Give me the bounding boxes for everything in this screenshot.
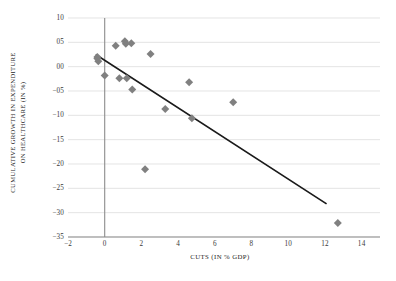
y-axis-tick-labels: 100500−05−10−15−20−25−30−35 [34,0,64,281]
x-axis-tick-label: 10 [273,240,303,248]
y-axis-title: CUMULATIVE GROWTH IN EXPENDITURE ON HEAL… [0,0,34,245]
x-axis-tick-label: 2 [126,240,156,248]
y-axis-tick-label: −25 [38,184,64,192]
x-axis-title: CUTS (IN % GDP) [60,253,380,260]
plot-svg [68,18,380,237]
axis-lines [68,18,380,237]
y-axis-tick-label: 10 [38,14,64,22]
y-axis-tick-label: −05 [38,87,64,95]
data-point-marker [334,219,342,227]
y-axis-tick-label: −20 [38,160,64,168]
scatter-chart-figure: CUMULATIVE GROWTH IN EXPENDITURE ON HEAL… [0,0,396,281]
x-axis-tick-label: −2 [53,240,83,248]
y-axis-tick-label: 05 [38,38,64,46]
data-point-marker [141,165,149,173]
data-point-marker [112,42,120,50]
y-axis-tick-label: 00 [38,63,64,71]
data-point-marker [101,71,109,79]
y-axis-tick-label: −10 [38,111,64,119]
y-axis-title-line2: ON HEALTHCARE (IN %) [17,52,27,192]
x-axis-tick-label: 14 [347,240,377,248]
trend-line-segment [96,55,325,203]
data-point-marker [229,98,237,106]
data-points [93,37,341,227]
x-axis-tick-label: 4 [163,240,193,248]
x-axis-tick-labels: −202468101214 [0,240,396,254]
x-axis-tick-label: 0 [90,240,120,248]
gridlines [68,18,380,237]
x-axis-tick-label: 8 [237,240,267,248]
y-axis-title-line1: CUMULATIVE GROWTH IN EXPENDITURE [8,52,18,192]
data-point-marker [128,86,136,94]
data-point-marker [147,50,155,58]
x-axis-tick-label: 12 [310,240,340,248]
data-point-marker [185,78,193,86]
x-axis-tick-label: 6 [200,240,230,248]
trend-line [96,55,325,203]
data-point-marker [161,105,169,113]
y-axis-tick-label: −30 [38,209,64,217]
data-point-marker [115,74,123,82]
y-axis-tick-label: −15 [38,136,64,144]
data-point-marker [127,39,135,47]
plot-area [68,18,380,237]
